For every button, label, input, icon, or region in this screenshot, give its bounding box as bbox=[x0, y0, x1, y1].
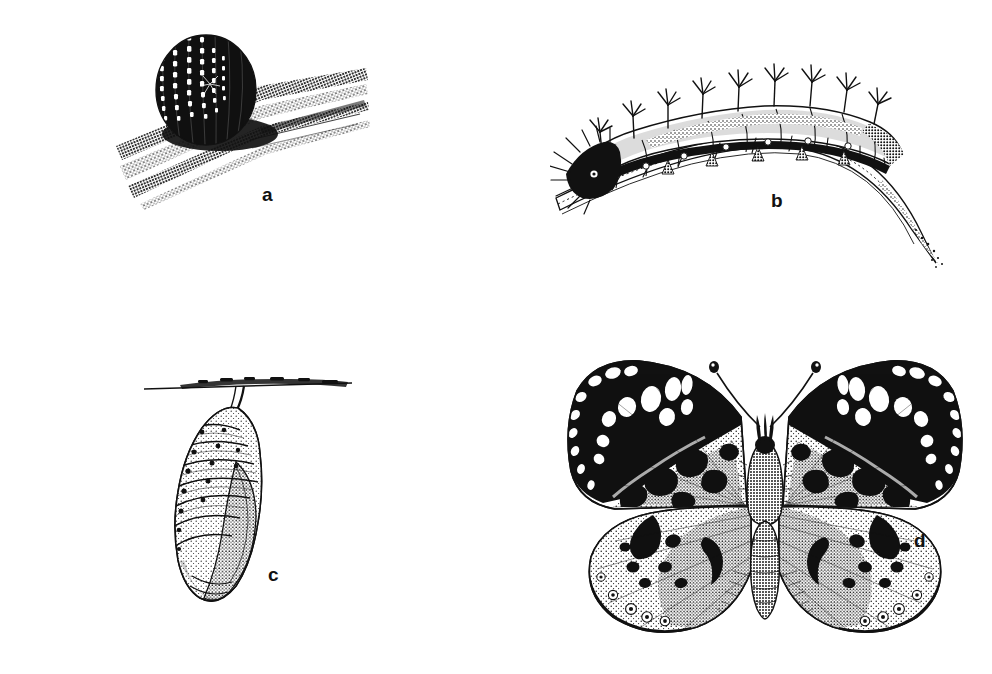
figure-root: a bbox=[0, 0, 992, 674]
adult-butterfly-drawing bbox=[555, 345, 975, 655]
twig bbox=[144, 377, 352, 389]
panel-d-butterfly-illustration bbox=[555, 345, 975, 655]
panel-label-a: a bbox=[262, 185, 273, 204]
panel-label-c: c bbox=[268, 565, 279, 584]
left-hindwing bbox=[575, 500, 765, 650]
chrysalis-body bbox=[160, 400, 280, 620]
panel-label-b: b bbox=[771, 191, 783, 210]
panel-b-caterpillar-illustration bbox=[550, 48, 970, 268]
chrysalis-drawing bbox=[140, 370, 370, 635]
panel-label-d: d bbox=[914, 531, 926, 550]
left-forewing bbox=[567, 361, 747, 509]
egg-on-leaf-drawing bbox=[110, 28, 380, 213]
right-forewing bbox=[783, 361, 963, 509]
panel-a-egg-illustration bbox=[110, 28, 380, 213]
caterpillar-on-leaf-drawing bbox=[550, 48, 970, 268]
right-hindwing bbox=[765, 500, 965, 650]
caterpillar-larva bbox=[550, 64, 904, 214]
head bbox=[755, 413, 775, 454]
abdomen bbox=[751, 521, 780, 619]
antenna-clubs bbox=[709, 361, 821, 373]
panel-c-chrysalis-illustration bbox=[140, 370, 370, 635]
